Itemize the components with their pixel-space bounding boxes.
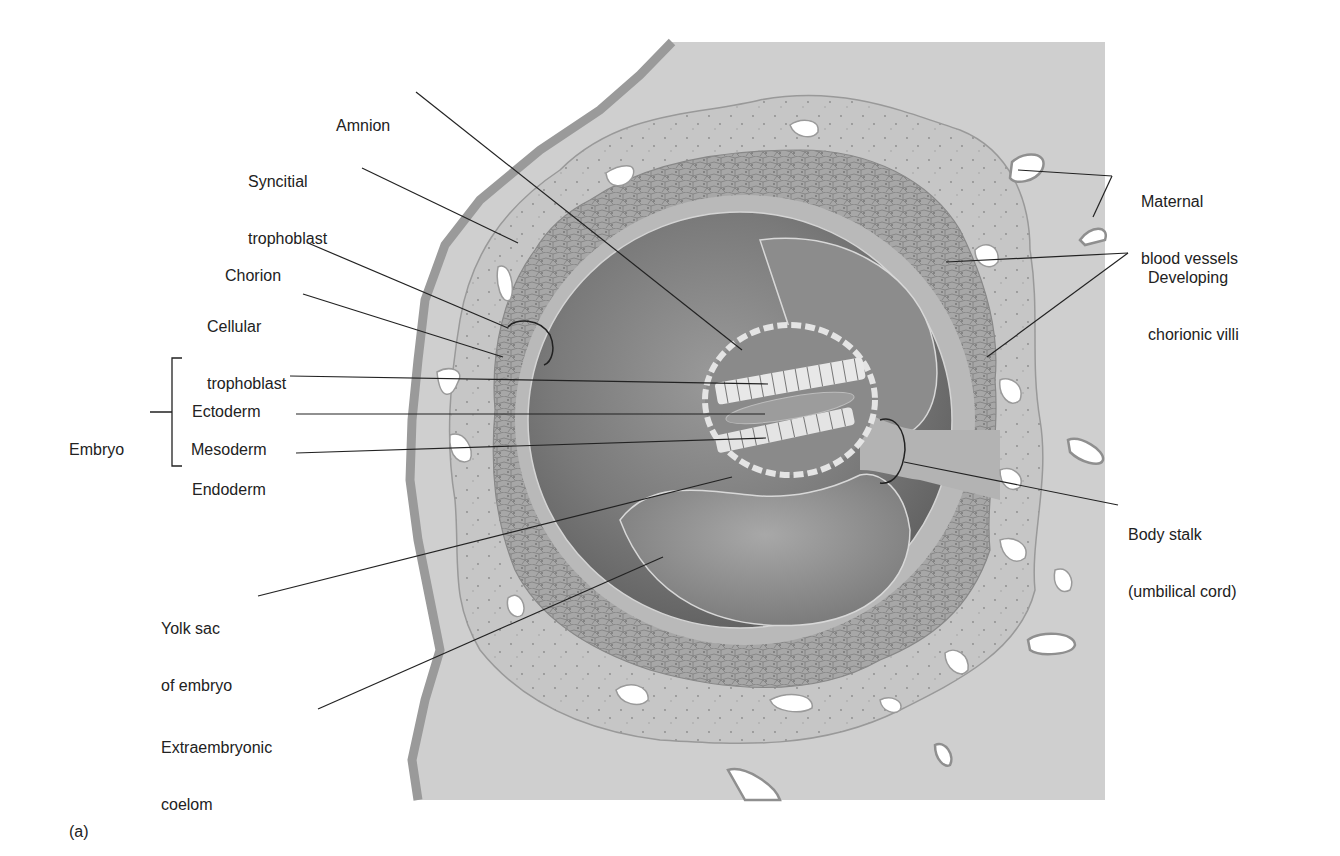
embryo-bracket xyxy=(150,358,182,466)
label-line-2: chorionic villi xyxy=(1148,325,1239,344)
label-endoderm: Endoderm xyxy=(192,442,266,518)
label-line-2: coelom xyxy=(161,795,272,814)
panel-label: (a) xyxy=(69,784,89,856)
label-yolk-sac: Yolk sac of embryo xyxy=(161,581,232,714)
label-body-stalk: Body stalk (umbilical cord) xyxy=(1128,487,1236,620)
label-developing-chorionic-villi: Developing chorionic villi xyxy=(1148,230,1239,363)
label-amnion: Amnion xyxy=(336,78,390,154)
label-extraembryonic-coelom: Extraembryonic coelom xyxy=(161,700,272,833)
label-line-2: (umbilical cord) xyxy=(1128,582,1236,601)
label-line-1: Syncitial xyxy=(248,172,327,191)
label-endoderm-text: Endoderm xyxy=(192,480,266,499)
label-line-1: Developing xyxy=(1148,268,1239,287)
label-line-1: Yolk sac xyxy=(161,619,232,638)
label-line-1: Maternal xyxy=(1141,192,1238,211)
panel-label-text: (a) xyxy=(69,822,89,841)
label-line-1: Extraembryonic xyxy=(161,738,272,757)
label-amnion-text: Amnion xyxy=(336,116,390,135)
label-line-1: Cellular xyxy=(207,317,286,336)
label-embryo-text: Embryo xyxy=(69,440,124,459)
label-line-2: of embryo xyxy=(161,676,232,695)
label-line-1: Body stalk xyxy=(1128,525,1236,544)
label-embryo: Embryo xyxy=(69,402,124,478)
